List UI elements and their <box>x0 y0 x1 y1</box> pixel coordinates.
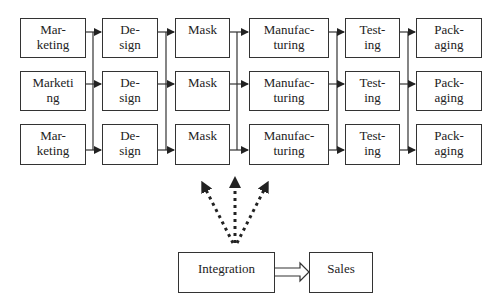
integration-label: Integration <box>198 261 255 276</box>
row1-marketing-box: Mar- keting <box>20 18 86 58</box>
row1-packaging-box: Pack- aging <box>416 18 482 58</box>
row3-manufacturing-box: Manufac- turing <box>249 124 329 165</box>
box-label: De- sign <box>119 22 141 52</box>
row3-mask-box: Mask <box>175 124 230 165</box>
box-label: De- sign <box>119 128 141 158</box>
row2-packaging-box: Pack- aging <box>416 71 482 111</box>
box-label: Marketi ng <box>32 75 73 105</box>
box-label: Mar- keting <box>37 128 70 158</box>
sales-box: Sales <box>309 252 373 293</box>
row2-design-box: De- sign <box>102 71 158 111</box>
row1-manufacturing-box: Manufac- turing <box>249 18 329 58</box>
box-label: Pack- aging <box>434 22 464 52</box>
row2-marketing-box: Marketi ng <box>20 71 86 111</box>
box-label: Mask <box>188 75 217 90</box>
dotted-feedback-arrows <box>204 182 266 243</box>
sales-label: Sales <box>327 261 354 276</box>
row1-testing-box: Test- ing <box>345 18 400 58</box>
row2-testing-box: Test- ing <box>345 71 400 111</box>
box-label: Pack- aging <box>434 128 464 158</box>
row3-marketing-box: Mar- keting <box>20 124 86 165</box>
row3-testing-box: Test- ing <box>345 124 400 165</box>
integration-box: Integration <box>178 252 275 293</box>
integration-to-sales-arrow <box>274 263 309 281</box>
box-label: Mar- keting <box>37 22 70 52</box>
row3-packaging-box: Pack- aging <box>416 124 482 165</box>
box-label: Pack- aging <box>434 75 464 105</box>
row1-mask-box: Mask <box>175 18 230 58</box>
box-label: Test- ing <box>360 22 386 52</box>
row3-design-box: De- sign <box>102 124 158 165</box>
box-label: Test- ing <box>360 75 386 105</box>
row2-mask-box: Mask <box>175 71 230 111</box>
row1-design-box: De- sign <box>102 18 158 58</box>
row2-manufacturing-box: Manufac- turing <box>249 71 329 111</box>
box-label: Manufac- turing <box>264 22 315 52</box>
box-label: De- sign <box>119 75 141 105</box>
box-label: Test- ing <box>360 128 386 158</box>
box-label: Manufac- turing <box>264 128 315 158</box>
box-label: Mask <box>188 128 217 143</box>
box-label: Manufac- turing <box>264 75 315 105</box>
box-label: Mask <box>188 22 217 37</box>
